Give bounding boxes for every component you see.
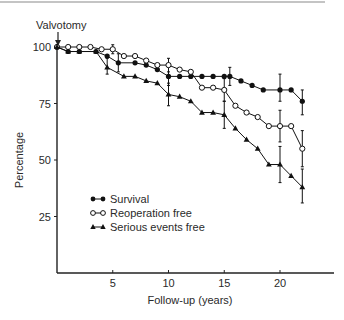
open-circle-marker-icon — [110, 47, 115, 52]
filled-circle-marker-icon — [289, 87, 294, 92]
y-axis-label: Percentage — [13, 132, 25, 188]
triangle-marker-icon — [277, 161, 283, 166]
open-circle-marker-icon — [266, 124, 271, 129]
series-reoperation-free — [54, 44, 305, 166]
open-circle-marker-icon — [177, 67, 182, 72]
open-circle-marker-icon — [155, 62, 160, 67]
x-axis: 5101520 — [57, 270, 334, 289]
filled-circle-marker-icon — [199, 74, 204, 79]
filled-circle-marker-icon — [177, 74, 182, 79]
x-tick-label: 5 — [110, 277, 116, 289]
x-tick-label: 10 — [162, 277, 174, 289]
open-circle-marker-icon — [222, 87, 227, 92]
open-circle-marker-icon — [188, 69, 193, 74]
y-tick-label: 100 — [33, 41, 51, 53]
filled-circle-marker-icon — [211, 74, 216, 79]
y-tick-label: 50 — [39, 154, 51, 166]
y-axis: 255075100 — [33, 41, 57, 273]
legend-label: Survival — [110, 193, 149, 205]
filled-circle-marker-icon — [116, 60, 121, 65]
filled-circle-marker-icon — [227, 74, 232, 79]
open-circle-marker-icon — [99, 47, 104, 52]
open-circle-marker-icon — [144, 58, 149, 63]
filled-circle-marker-icon — [166, 74, 171, 79]
triangle-marker-icon — [255, 146, 261, 151]
series-group — [54, 44, 305, 203]
filled-circle-marker-icon — [101, 197, 106, 202]
open-circle-marker-icon — [166, 62, 171, 67]
legend-item: Reoperation free — [91, 207, 192, 219]
legend-item: Survival — [91, 193, 150, 205]
filled-circle-marker-icon — [238, 78, 243, 83]
filled-circle-marker-icon — [261, 87, 266, 92]
filled-circle-marker-icon — [132, 60, 137, 65]
legend-label: Reoperation free — [110, 207, 192, 219]
legend: SurvivalReoperation freeSerious events f… — [90, 193, 204, 233]
open-circle-marker-icon — [199, 85, 204, 90]
open-circle-marker-icon — [300, 146, 305, 151]
filled-circle-marker-icon — [91, 197, 96, 202]
y-tick-label: 75 — [39, 98, 51, 110]
chart: Valvotomy 255075100 5101520 Percentage F… — [0, 0, 344, 320]
legend-label: Serious events free — [110, 221, 205, 233]
series-survival — [54, 44, 305, 114]
open-circle-marker-icon — [132, 53, 137, 58]
open-circle-marker-icon — [277, 124, 282, 129]
filled-circle-marker-icon — [277, 87, 282, 92]
filled-circle-marker-icon — [250, 83, 255, 88]
open-circle-marker-icon — [211, 85, 216, 90]
x-axis-label: Follow-up (years) — [148, 294, 233, 306]
filled-circle-marker-icon — [300, 99, 305, 104]
y-tick-label: 25 — [39, 211, 51, 223]
open-circle-marker-icon — [244, 110, 249, 115]
legend-item: Serious events free — [90, 221, 204, 233]
open-circle-marker-icon — [91, 211, 96, 216]
open-circle-marker-icon — [233, 103, 238, 108]
open-circle-marker-icon — [121, 53, 126, 58]
x-tick-label: 15 — [218, 277, 230, 289]
annotation-label: Valvotomy — [36, 19, 87, 31]
open-circle-marker-icon — [88, 44, 93, 49]
x-tick-label: 20 — [274, 277, 286, 289]
open-circle-marker-icon — [289, 124, 294, 129]
open-circle-marker-icon — [255, 114, 260, 119]
open-circle-marker-icon — [101, 211, 106, 216]
